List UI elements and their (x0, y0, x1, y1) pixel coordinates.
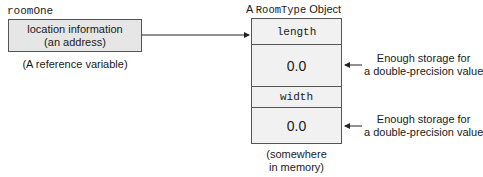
storage-note-width: Enough storage for a double-precision va… (364, 113, 483, 139)
field-name-length: length (252, 19, 341, 45)
reference-variable-box: location information (an address) (8, 19, 142, 52)
variable-name: roomOne (7, 5, 53, 17)
storage-note-length: Enough storage for a double-precision va… (364, 52, 483, 78)
reference-caption: (A reference variable) (8, 58, 142, 70)
roomtype-object: length 0.0 width 0.0 (251, 18, 342, 144)
reference-box-line1: location information (9, 23, 141, 36)
reference-box-line2: (an address) (9, 36, 141, 49)
field-value-width: 0.0 (252, 108, 341, 143)
object-title-suffix: Object (309, 3, 341, 15)
field-value-length: 0.0 (252, 45, 341, 87)
object-title-prefix: A (246, 3, 253, 15)
memory-caption: (somewhere in memory) (251, 148, 342, 174)
object-title-type: RoomType (256, 4, 306, 16)
object-title: A RoomType Object (246, 3, 341, 16)
field-name-width: width (252, 87, 341, 108)
